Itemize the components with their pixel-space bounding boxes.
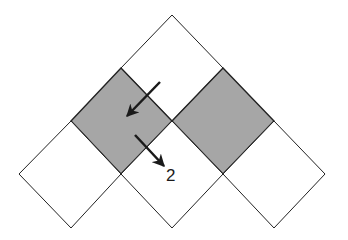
step-label: 2 (166, 166, 175, 185)
grid-cells (19, 15, 325, 228)
diagram-canvas: 2 (0, 0, 348, 240)
diamond-grid-diagram: 2 (0, 0, 348, 240)
